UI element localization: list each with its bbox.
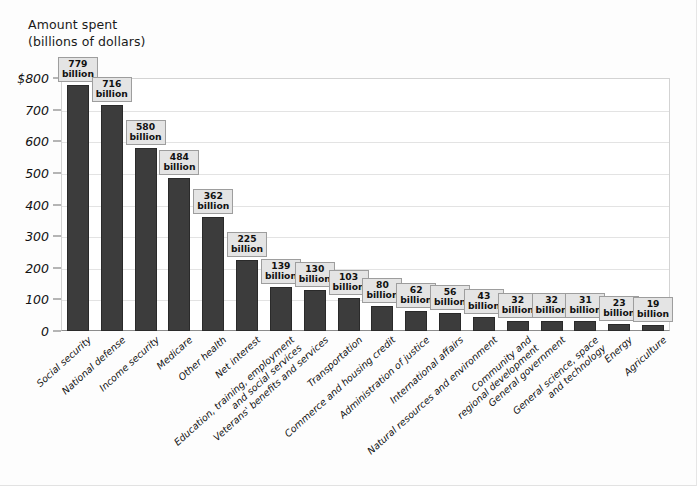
bar-group[interactable]: 779billion [61, 78, 95, 331]
y-tick-mark-500 [53, 172, 61, 173]
bar[interactable] [371, 306, 393, 331]
bar-value-unit: billion [130, 132, 162, 142]
bar-value-unit: billion [299, 274, 331, 284]
bar-value-unit: billion [569, 305, 601, 315]
axis-title-line-1: (billions of dollars) [28, 33, 146, 50]
bar[interactable] [439, 313, 461, 331]
y-tick-label-400: 400 [25, 197, 49, 212]
bar-value-label: 580billion [126, 120, 166, 145]
bar-value-unit: billion [637, 309, 669, 319]
bar[interactable] [608, 324, 630, 331]
bar-value-unit: billion [96, 89, 128, 99]
bar[interactable] [270, 287, 292, 331]
y-tick-label-100: 100 [25, 292, 49, 307]
bar-value-unit: billion [366, 290, 398, 300]
y-tick-label-700: 700 [25, 102, 49, 117]
y-tick-label-300: 300 [25, 229, 49, 244]
bar[interactable] [574, 321, 596, 331]
bar[interactable] [202, 217, 224, 331]
bar[interactable] [135, 148, 157, 331]
bar-group[interactable]: 32billion [535, 78, 569, 331]
bar-group[interactable]: 362billion [196, 78, 230, 331]
bar[interactable] [642, 325, 664, 331]
y-tick-mark-700 [53, 109, 61, 110]
bar-value-unit: billion [502, 305, 534, 315]
bar-group[interactable]: 580billion [129, 78, 163, 331]
bar-value-unit: billion [333, 282, 365, 292]
chart-page: Amount spent(billions of dollars) 010020… [0, 0, 697, 486]
bar-group[interactable]: 19billion [636, 78, 670, 331]
bar[interactable] [338, 298, 360, 331]
bar[interactable] [304, 290, 326, 331]
x-axis-label-line: National defense [59, 334, 127, 397]
bar-value-label: 19billion [633, 297, 673, 322]
x-axis-label: National defense [59, 334, 127, 397]
y-tick-mark-200 [53, 267, 61, 268]
bar-group[interactable]: 56billion [433, 78, 467, 331]
bar-value-unit: billion [400, 295, 432, 305]
y-tick-mark-300 [53, 236, 61, 237]
bar[interactable] [541, 321, 563, 331]
bar-group[interactable]: 32billion [501, 78, 535, 331]
bar-group[interactable]: 225billion [230, 78, 264, 331]
bar-value-unit: billion [197, 201, 229, 211]
bar-value-unit: billion [163, 162, 195, 172]
bar-value-unit: billion [468, 301, 500, 311]
bar-value-unit: billion [603, 308, 635, 318]
bar-group[interactable]: 23billion [602, 78, 636, 331]
bar[interactable] [405, 311, 427, 331]
bar[interactable] [67, 85, 89, 331]
bar-group[interactable]: 139billion [264, 78, 298, 331]
chart-axis-title: Amount spent(billions of dollars) [28, 16, 146, 50]
bar[interactable] [168, 178, 190, 331]
bar-value-unit: billion [265, 271, 297, 281]
bar-value-unit: billion [536, 305, 568, 315]
y-axis: 0100200300400500600700$800 [0, 70, 61, 340]
bar-value-label: 362billion [193, 189, 233, 214]
axis-title-line-0: Amount spent [28, 16, 146, 33]
bar-value-label: 225billion [227, 232, 267, 257]
y-tick-mark-0 [53, 331, 61, 332]
bar-group[interactable]: 130billion [298, 78, 332, 331]
y-tick-mark-100 [53, 299, 61, 300]
bars-layer: 779billion716billion580billion484billion… [61, 78, 670, 331]
bar-value-label: 484billion [159, 150, 199, 175]
y-tick-mark-600 [53, 141, 61, 142]
bar[interactable] [507, 321, 529, 331]
bar-group[interactable]: 103billion [332, 78, 366, 331]
bar-group[interactable]: 716billion [95, 78, 129, 331]
bar-value-unit: billion [434, 297, 466, 307]
bar[interactable] [236, 260, 258, 331]
y-tick-label-200: 200 [25, 260, 49, 275]
bar[interactable] [101, 105, 123, 331]
bar-value-unit: billion [231, 244, 263, 254]
bar-value-label: 716billion [92, 77, 132, 102]
bar-value-unit: billion [62, 69, 94, 79]
y-tick-mark-400 [53, 204, 61, 205]
y-tick-label-600: 600 [25, 134, 49, 149]
bar-group[interactable]: 31billion [569, 78, 603, 331]
bar[interactable] [473, 317, 495, 331]
x-axis-label: Income security [97, 334, 161, 393]
x-axis-label-line: Income security [97, 334, 161, 393]
bar-group[interactable]: 80billion [366, 78, 400, 331]
x-axis-labels: Social securityNational defenseIncome se… [61, 334, 670, 484]
y-tick-label-800: $800 [17, 71, 49, 86]
bar-group[interactable]: 484billion [163, 78, 197, 331]
bar-group[interactable]: 43billion [467, 78, 501, 331]
bar-group[interactable]: 62billion [399, 78, 433, 331]
y-tick-label-0: 0 [41, 324, 49, 339]
y-tick-label-500: 500 [25, 165, 49, 180]
